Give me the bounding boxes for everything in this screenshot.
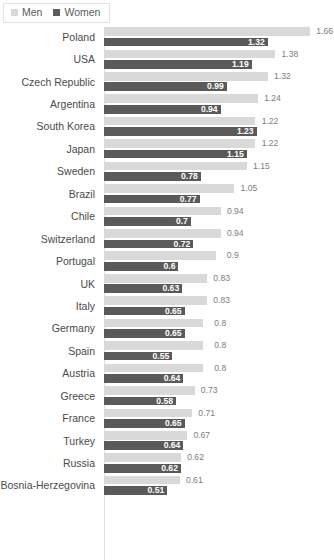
bar-value-men: 0.94 bbox=[227, 207, 244, 216]
bar-men-segment[interactable]: 0.61 bbox=[104, 476, 180, 485]
category-label: Switzerland bbox=[0, 234, 100, 245]
category-label: UK bbox=[0, 279, 100, 290]
bar-men-segment[interactable]: 0.94 bbox=[104, 207, 221, 216]
bar-women-segment[interactable]: 1.32 bbox=[104, 38, 268, 47]
category-label: South Korea bbox=[0, 121, 100, 132]
bar-group: 0.80.64 bbox=[104, 363, 334, 385]
bar-men-segment[interactable]: 1.38 bbox=[104, 50, 275, 59]
bar-value-women: 0.6 bbox=[164, 262, 176, 271]
bar-value-women: 1.32 bbox=[248, 38, 265, 47]
bar-value-men: 0.8 bbox=[214, 341, 226, 350]
bar-value-men: 1.24 bbox=[264, 94, 281, 103]
bar-women-segment[interactable]: 0.62 bbox=[104, 464, 181, 473]
bar-men-segment[interactable]: 0.83 bbox=[104, 296, 207, 305]
chart-legend: Men Women bbox=[3, 3, 110, 23]
bar-row: Turkey0.670.64 bbox=[0, 430, 334, 452]
bar-women-segment[interactable]: 0.99 bbox=[104, 82, 227, 91]
bar-men-segment[interactable]: 0.9 bbox=[104, 251, 216, 260]
bar-value-men: 0.94 bbox=[227, 229, 244, 238]
bar-women-segment[interactable]: 1.19 bbox=[104, 60, 252, 69]
bar-value-women: 0.64 bbox=[164, 441, 181, 450]
bar-value-women: 1.15 bbox=[227, 150, 244, 159]
bar-men-segment[interactable]: 1.15 bbox=[104, 162, 247, 171]
bar-women-segment[interactable]: 1.23 bbox=[104, 127, 257, 136]
bar-men-segment[interactable]: 0.83 bbox=[104, 274, 207, 283]
bar-value-men: 1.22 bbox=[262, 117, 279, 126]
category-label: USA bbox=[0, 54, 100, 65]
bar-men-segment[interactable]: 0.73 bbox=[104, 386, 195, 395]
bar-men-segment[interactable]: 1.05 bbox=[104, 184, 234, 193]
bar-value-men: 0.8 bbox=[214, 364, 226, 373]
category-label: Spain bbox=[0, 346, 100, 357]
bar-group: 1.661.32 bbox=[104, 26, 334, 48]
legend-entry-men[interactable]: Men bbox=[11, 7, 42, 18]
bar-rows-container: Poland1.661.32USA1.381.19Czech Republic1… bbox=[0, 26, 334, 497]
bar-row: Italy0.830.65 bbox=[0, 295, 334, 317]
bar-value-men: 0.61 bbox=[186, 476, 203, 485]
bar-men-segment[interactable]: 1.22 bbox=[104, 117, 255, 126]
bar-value-men: 0.9 bbox=[227, 251, 239, 260]
bar-value-men: 0.62 bbox=[187, 453, 204, 462]
bar-value-women: 1.23 bbox=[237, 127, 254, 136]
bar-women-segment[interactable]: 0.64 bbox=[104, 374, 183, 383]
bar-women-segment[interactable]: 0.7 bbox=[104, 217, 191, 226]
bar-women-segment[interactable]: 0.65 bbox=[104, 419, 185, 428]
bar-women-segment[interactable]: 1.15 bbox=[104, 150, 247, 159]
legend-entry-women[interactable]: Women bbox=[53, 7, 100, 18]
bar-value-women: 0.77 bbox=[180, 195, 197, 204]
bar-women-segment[interactable]: 0.65 bbox=[104, 307, 185, 316]
bar-men-segment[interactable]: 0.8 bbox=[104, 364, 203, 373]
bar-group: 1.381.19 bbox=[104, 48, 334, 70]
bar-value-women: 1.19 bbox=[232, 60, 249, 69]
bar-men-segment[interactable]: 0.67 bbox=[104, 431, 187, 440]
bar-women-segment[interactable]: 0.78 bbox=[104, 172, 201, 181]
bar-group: 0.90.6 bbox=[104, 250, 334, 272]
bar-women-segment[interactable]: 0.77 bbox=[104, 195, 200, 204]
bar-women-segment[interactable]: 0.58 bbox=[104, 397, 176, 406]
bar-men-segment[interactable]: 0.8 bbox=[104, 341, 203, 350]
bar-value-women: 0.65 bbox=[165, 419, 182, 428]
bar-men-segment[interactable]: 0.94 bbox=[104, 229, 221, 238]
bar-men-segment[interactable]: 1.66 bbox=[104, 27, 310, 36]
bar-men-segment[interactable]: 0.8 bbox=[104, 319, 203, 328]
bar-row: Czech Republic1.320.99 bbox=[0, 71, 334, 93]
bar-group: 1.320.99 bbox=[104, 71, 334, 93]
bar-value-men: 1.66 bbox=[316, 27, 333, 36]
bar-value-men: 1.38 bbox=[282, 50, 299, 59]
bar-women-segment[interactable]: 0.72 bbox=[104, 240, 193, 249]
bar-group: 0.80.55 bbox=[104, 340, 334, 362]
bar-group: 0.610.51 bbox=[104, 475, 334, 497]
bar-men-segment[interactable]: 1.32 bbox=[104, 72, 268, 81]
bar-men-segment[interactable]: 1.24 bbox=[104, 94, 258, 103]
bar-group: 1.221.23 bbox=[104, 116, 334, 138]
bar-row: Chile0.940.7 bbox=[0, 206, 334, 228]
bar-row: South Korea1.221.23 bbox=[0, 116, 334, 138]
bar-women-segment[interactable]: 0.6 bbox=[104, 262, 178, 271]
bar-group: 0.730.58 bbox=[104, 385, 334, 407]
bar-men-segment[interactable]: 1.22 bbox=[104, 139, 255, 148]
bar-group: 0.670.64 bbox=[104, 430, 334, 452]
bar-value-women: 0.78 bbox=[181, 172, 198, 181]
bar-row: Brazil1.050.77 bbox=[0, 183, 334, 205]
bar-value-men: 0.83 bbox=[213, 274, 230, 283]
bar-group: 0.620.62 bbox=[104, 452, 334, 474]
bar-value-women: 0.55 bbox=[153, 352, 170, 361]
bar-women-segment[interactable]: 0.94 bbox=[104, 105, 221, 114]
bar-men-segment[interactable]: 0.71 bbox=[104, 409, 192, 418]
bar-men-segment[interactable]: 0.62 bbox=[104, 453, 181, 462]
bar-value-women: 0.62 bbox=[161, 464, 178, 473]
bar-row: Russia0.620.62 bbox=[0, 452, 334, 474]
bar-women-segment[interactable]: 0.63 bbox=[104, 284, 182, 293]
bar-women-segment[interactable]: 0.51 bbox=[104, 486, 167, 495]
bar-row: UK0.830.63 bbox=[0, 273, 334, 295]
bar-group: 0.940.72 bbox=[104, 228, 334, 250]
bar-value-women: 0.99 bbox=[207, 82, 224, 91]
bar-value-men: 0.83 bbox=[213, 296, 230, 305]
bar-women-segment[interactable]: 0.55 bbox=[104, 352, 172, 361]
category-label: France bbox=[0, 413, 100, 424]
category-label: Bosnia-Herzegovina bbox=[0, 480, 100, 491]
bar-group: 1.221.15 bbox=[104, 138, 334, 160]
bar-women-segment[interactable]: 0.64 bbox=[104, 441, 183, 450]
bar-group: 0.80.65 bbox=[104, 318, 334, 340]
bar-women-segment[interactable]: 0.65 bbox=[104, 329, 185, 338]
